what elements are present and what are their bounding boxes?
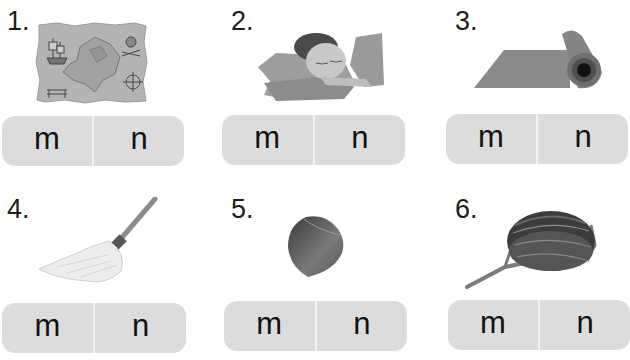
letter-choice: m n [446,114,628,164]
letter-choice: m n [2,116,184,166]
option-m[interactable]: m [446,114,536,164]
option-n[interactable]: n [538,114,628,164]
treasure-map-icon [35,22,149,104]
letter-choice: m n [448,300,630,350]
mop-icon [37,197,159,285]
item-number: 4. [7,196,30,223]
option-n[interactable]: n [94,116,184,166]
option-m[interactable]: m [2,116,92,166]
option-m[interactable]: m [2,303,93,353]
letter-choice: m n [222,115,405,165]
option-n[interactable]: n [95,303,186,353]
option-n[interactable]: n [315,115,406,165]
option-n[interactable]: n [317,301,408,351]
item-number: 5. [231,196,254,223]
option-n[interactable]: n [540,300,630,350]
hazelnut-icon [286,215,346,279]
letter-choice: m n [224,301,407,351]
option-m[interactable]: m [448,300,538,350]
item-number: 2. [231,8,254,35]
yoga-mat-icon [474,28,604,90]
option-m[interactable]: m [224,301,315,351]
bird-nest-icon [465,205,601,289]
letter-choice: m n [2,303,186,353]
sleeping-girl-icon [256,25,386,101]
option-m[interactable]: m [222,115,313,165]
item-number: 1. [7,8,30,35]
